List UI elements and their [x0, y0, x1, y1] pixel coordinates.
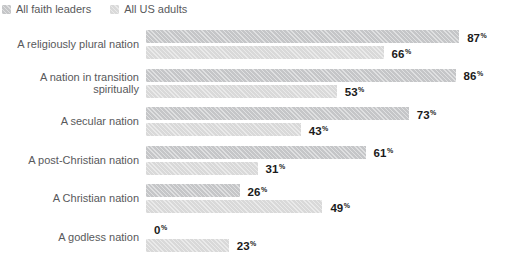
- legend-swatch-icon: [110, 5, 119, 14]
- category-label: A nation in transition spiritually: [0, 71, 146, 96]
- percent-sign: %: [322, 125, 328, 132]
- value-label: 61%: [374, 144, 394, 160]
- bar-row: 31%: [146, 162, 505, 175]
- category-group: A Christian nation26%49%: [0, 184, 505, 213]
- category-group: A post-Christian nation61%31%: [0, 146, 505, 175]
- value-number: 31: [266, 163, 279, 175]
- bar-pair: 73%43%: [146, 107, 505, 136]
- value-label: 66%: [392, 45, 412, 61]
- value-number: 26: [248, 186, 261, 198]
- bar-faith-leaders: [146, 107, 409, 120]
- percent-sign: %: [279, 163, 285, 170]
- category-group: A nation in transition spiritually86%53%: [0, 69, 505, 98]
- legend: All faith leadersAll US adults: [0, 0, 505, 16]
- bar-us-adults: [146, 200, 322, 213]
- bar-row: 53%: [146, 85, 505, 98]
- bar-pair: 61%31%: [146, 146, 505, 175]
- bar-pair: 0%23%: [146, 223, 505, 252]
- bar-us-adults: [146, 46, 384, 59]
- percent-sign: %: [387, 147, 393, 154]
- value-label: 23%: [237, 237, 257, 253]
- bar-row: 86%: [146, 69, 505, 82]
- category-label: A post-Christian nation: [0, 154, 146, 167]
- bar-us-adults: [146, 239, 229, 252]
- bar-pair: 87%66%: [146, 30, 505, 59]
- bar-row: 49%: [146, 200, 505, 213]
- category-label: A Christian nation: [0, 192, 146, 205]
- value-label: 73%: [417, 106, 437, 122]
- category-label: A godless nation: [0, 231, 146, 244]
- bar-chart-figure: All faith leadersAll US adults A religio…: [0, 0, 505, 266]
- value-label: 31%: [266, 160, 286, 176]
- value-number: 23: [237, 240, 250, 252]
- percent-sign: %: [358, 86, 364, 93]
- legend-label: All US adults: [124, 3, 187, 16]
- value-number: 86: [464, 70, 477, 82]
- bar-row: 23%: [146, 239, 505, 252]
- bar-pair: 26%49%: [146, 184, 505, 213]
- percent-sign: %: [430, 109, 436, 116]
- value-label: 0%: [154, 221, 167, 237]
- percent-sign: %: [261, 186, 267, 193]
- bar-row: 73%: [146, 107, 505, 120]
- bar-us-adults: [146, 123, 301, 136]
- bar-row: 61%: [146, 146, 505, 159]
- percent-sign: %: [405, 48, 411, 55]
- bar-row: 43%: [146, 123, 505, 136]
- percent-sign: %: [480, 32, 486, 39]
- legend-swatch-icon: [2, 5, 11, 14]
- bar-chart: A religiously plural nation87%66%A natio…: [0, 30, 505, 252]
- bar-faith-leaders: [146, 30, 459, 43]
- bar-row: 87%: [146, 30, 505, 43]
- bar-row: 0%: [146, 223, 505, 236]
- value-number: 0: [154, 224, 160, 236]
- value-number: 73: [417, 109, 430, 121]
- value-number: 43: [309, 125, 322, 137]
- value-label: 87%: [467, 29, 487, 45]
- value-label: 49%: [330, 199, 350, 215]
- percent-sign: %: [161, 224, 167, 231]
- bar-us-adults: [146, 85, 337, 98]
- bar-us-adults: [146, 162, 258, 175]
- value-number: 49: [330, 202, 343, 214]
- bar-pair: 86%53%: [146, 69, 505, 98]
- bar-row: 66%: [146, 46, 505, 59]
- category-label: A secular nation: [0, 115, 146, 128]
- category-group: A godless nation0%23%: [0, 223, 505, 252]
- value-label: 26%: [248, 183, 268, 199]
- legend-item: All US adults: [110, 3, 187, 16]
- bar-row: 26%: [146, 184, 505, 197]
- category-group: A secular nation73%43%: [0, 107, 505, 136]
- legend-item: All faith leaders: [2, 3, 91, 16]
- value-label: 86%: [464, 67, 484, 83]
- category-label: A religiously plural nation: [0, 38, 146, 51]
- bar-faith-leaders: [146, 184, 240, 197]
- percent-sign: %: [477, 70, 483, 77]
- percent-sign: %: [344, 202, 350, 209]
- percent-sign: %: [250, 240, 256, 247]
- bar-faith-leaders: [146, 146, 366, 159]
- value-number: 87: [467, 32, 480, 44]
- value-label: 53%: [345, 83, 365, 99]
- bar-faith-leaders: [146, 69, 456, 82]
- category-group: A religiously plural nation87%66%: [0, 30, 505, 59]
- value-label: 43%: [309, 122, 329, 138]
- value-number: 66: [392, 48, 405, 60]
- value-number: 61: [374, 147, 387, 159]
- legend-label: All faith leaders: [16, 3, 91, 16]
- value-number: 53: [345, 86, 358, 98]
